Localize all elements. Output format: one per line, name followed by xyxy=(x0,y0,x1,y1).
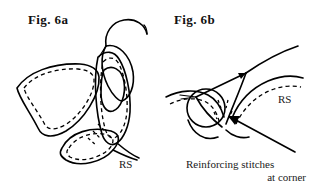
fabric-left-edge-outline xyxy=(166,91,224,117)
thread-loop-large-inner xyxy=(102,46,122,101)
petal-lower-arc-right xyxy=(226,130,249,138)
reinforcing-stitches-caption: Reinforcing stitches at corner xyxy=(186,158,312,183)
caption-line-1: Reinforcing stitches xyxy=(186,158,312,171)
thread-tail-curve xyxy=(106,20,147,46)
fig-6b-label: Fig. 6b xyxy=(174,12,215,28)
rs-label-fig-6a: RS xyxy=(119,158,132,170)
fig-6a-label: Fig. 6a xyxy=(28,12,68,28)
rs-label-fig-6b: RS xyxy=(278,93,291,105)
caption-line-2: at corner xyxy=(186,171,312,184)
petal-lower-arc-left xyxy=(188,120,218,138)
corner-stitch-marks-left xyxy=(88,124,106,146)
illustration-canvas: Fig. 6a Fig. 6b RS RS Reinforcing stitch… xyxy=(0,0,316,189)
fig-6a-artwork xyxy=(17,20,147,164)
thread-tail-lower-b xyxy=(117,143,139,158)
fabric-right-edge-stitch xyxy=(236,86,301,124)
caption-arrow-line xyxy=(232,118,295,152)
needle-thread-upper xyxy=(246,46,298,73)
thread-loop-small xyxy=(101,67,124,111)
